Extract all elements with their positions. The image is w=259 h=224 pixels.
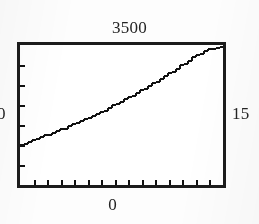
axis-label-left: 0 [0, 105, 6, 122]
plot-canvas [20, 45, 223, 185]
axis-label-top: 3500 [0, 19, 259, 36]
figure-root: 3500 0 15 0 [0, 0, 259, 224]
x-axis-ticks [35, 180, 224, 185]
y-axis-ticks [20, 66, 25, 166]
plot-frame [17, 42, 226, 188]
axis-label-right: 15 [232, 105, 249, 122]
data-series-group [20, 47, 223, 145]
plot-area [20, 45, 223, 185]
axis-label-bottom: 0 [0, 196, 225, 213]
